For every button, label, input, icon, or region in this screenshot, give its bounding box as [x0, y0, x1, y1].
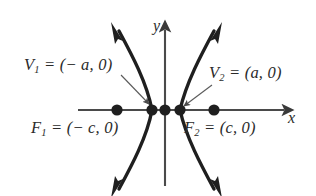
focus-2-label-value: = (c, 0)	[204, 118, 256, 137]
y-axis-label: y	[153, 18, 160, 34]
point-f1	[111, 104, 122, 115]
focus-1-label-name: F	[31, 118, 41, 137]
point-center	[159, 104, 170, 115]
vertex-1-label-subscript: 1	[34, 64, 39, 75]
hyperbola-figure: V1 = (− a, 0) V2 = (a, 0) F1 = (− c, 0) …	[0, 0, 316, 196]
focus-1-label-subscript: 1	[41, 127, 46, 138]
vertex-1-label-name: V	[24, 55, 34, 74]
vertex-1-label: V1 = (− a, 0)	[24, 57, 112, 74]
point-v1	[146, 104, 157, 115]
focus-2-label-name: F	[184, 118, 194, 137]
focus-2-label-subscript: 2	[194, 127, 199, 138]
vertex-2-label-subscript: 2	[219, 72, 224, 83]
focus-1-label: F1 = (− c, 0)	[31, 120, 118, 137]
vertex-1-label-value: = (− a, 0)	[44, 55, 112, 74]
vertex-2-label: V2 = (a, 0)	[209, 65, 282, 82]
vertex-2-label-value: = (a, 0)	[229, 63, 282, 82]
vertex-2-label-name: V	[209, 63, 219, 82]
x-axis-label: x	[288, 110, 295, 126]
focus-2-label: F2 = (c, 0)	[184, 120, 256, 137]
point-v2	[174, 104, 185, 115]
point-f2	[208, 104, 219, 115]
focus-1-label-value: = (− c, 0)	[51, 118, 118, 137]
